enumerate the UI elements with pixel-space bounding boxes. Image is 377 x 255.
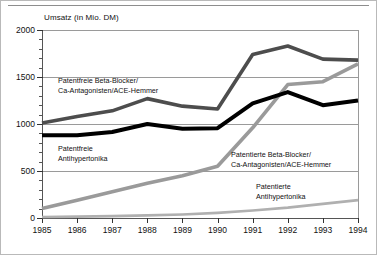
series-label-line1: Patentierte Beta-Blocker/ (231, 150, 331, 160)
x-axis-tick-label: 1992 (278, 225, 297, 235)
x-axis-tick-label: 1985 (33, 225, 52, 235)
x-axis-tick-label: 1993 (313, 225, 332, 235)
y-axis-tick-label: 500 (21, 166, 35, 176)
plot-area: 0500100015002000 19851986198719881989199… (42, 30, 358, 218)
x-tick (323, 218, 324, 223)
series-line-3 (42, 200, 358, 217)
series-label-line1: Patentfreie (58, 144, 108, 154)
x-axis-tick-label: 1990 (208, 225, 227, 235)
chart-axis-title: Umsatz (in Mio. DM) (44, 13, 119, 22)
x-tick (42, 218, 43, 223)
x-axis-tick-label: 1987 (103, 225, 122, 235)
y-axis-tick-label: 0 (30, 213, 35, 223)
x-axis-line (42, 218, 358, 219)
series-label-line2: Antihypertonika (256, 192, 306, 202)
x-axis-tick-label: 1988 (138, 225, 157, 235)
x-tick (182, 218, 183, 223)
series-label-patentierte-betablocker: Patentierte Beta-Blocker/ Ca-Antagoniste… (231, 150, 331, 169)
series-label-patentfreie-betablocker: Patentfreie Beta-Blocker/ Ca-Antagoniste… (58, 76, 158, 95)
series-label-patentfreie-antihypertonika: Patentfreie Antihypertonika (58, 144, 108, 163)
x-axis-tick-label: 1986 (68, 225, 87, 235)
x-axis-tick-label: 1994 (349, 225, 368, 235)
x-tick (288, 218, 289, 223)
series-label-line1: Patentfreie Beta-Blocker/ (58, 76, 158, 86)
y-axis-tick-label: 1500 (16, 72, 35, 82)
series-label-patentierte-antihypertonika: Patentierte Antihypertonika (256, 182, 306, 201)
series-label-line2: Antihypertonika (58, 154, 108, 164)
x-tick (218, 218, 219, 223)
x-axis-tick-label: 1989 (173, 225, 192, 235)
x-tick (147, 218, 148, 223)
series-label-line2: Ca-Antagonisten/ACE-Hemmer (231, 160, 331, 170)
series-lines (42, 30, 358, 218)
series-label-line1: Patentierte (256, 182, 306, 192)
x-tick (253, 218, 254, 223)
chart-figure: Umsatz (in Mio. DM) 0500100015002000 198… (0, 0, 377, 255)
plot-frame-right (358, 30, 359, 218)
y-axis-tick-label: 1000 (16, 119, 35, 129)
top-rule-divider (8, 5, 369, 6)
y-axis-tick-label: 2000 (16, 25, 35, 35)
series-label-line2: Ca-Antagonisten/ACE-Hemmer (58, 86, 158, 96)
x-axis-tick-label: 1991 (243, 225, 262, 235)
x-tick (112, 218, 113, 223)
x-tick (358, 218, 359, 223)
x-tick (77, 218, 78, 223)
